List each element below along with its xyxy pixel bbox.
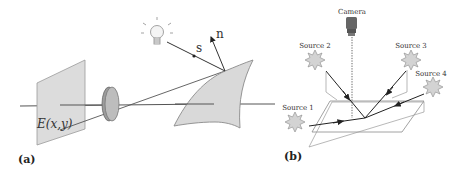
- panel-a-label: (a): [18, 153, 36, 166]
- camera-icon: [346, 17, 357, 36]
- image-plane: [37, 60, 85, 145]
- figure-canvas: s n E(x,y) Camera: [0, 0, 465, 180]
- source2-star-icon: [305, 50, 325, 70]
- light-bulb-icon: [141, 17, 173, 44]
- source1-label: Source 1: [282, 104, 314, 112]
- surface-normal-vector: [211, 37, 225, 71]
- surface-patch: [174, 60, 253, 128]
- ray-source4-arrow: [397, 102, 404, 105]
- ray-source3-arrow: [388, 87, 393, 93]
- normal-vector-label: n: [216, 27, 224, 41]
- camera-label: Camera: [338, 8, 366, 16]
- panel-b-label: (b): [284, 150, 302, 163]
- source2-label: Source 2: [299, 42, 331, 50]
- light-vector-label: s: [196, 41, 202, 55]
- ray-source2-arrow: [343, 91, 348, 98]
- source3-label: Source 3: [395, 42, 427, 50]
- source4-star-icon: [423, 77, 443, 97]
- tilted-plane: [309, 102, 424, 147]
- image-plane-label: E(x,y): [36, 117, 73, 131]
- lens: [102, 87, 119, 121]
- incidence-plane-source2: [326, 72, 337, 100]
- source3-star-icon: [401, 50, 421, 70]
- panel-b: Camera: [282, 8, 447, 147]
- panel-a: s n E(x,y): [20, 17, 275, 145]
- source1-star-icon: [285, 112, 305, 132]
- source4-label: Source 4: [415, 70, 447, 78]
